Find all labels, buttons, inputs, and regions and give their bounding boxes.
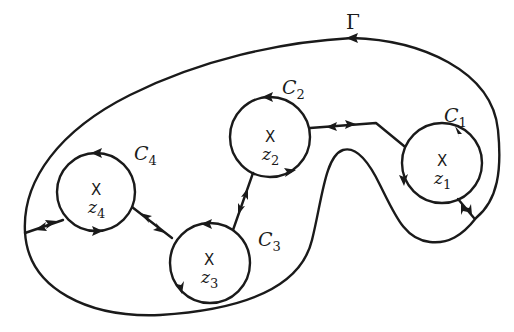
contour-diagram: Γ C1 C2 C3 C4 X z1 X z2 X z3 X z4	[0, 0, 514, 332]
z2-subscript: 2	[271, 153, 279, 168]
z1-subscript: 1	[443, 177, 451, 192]
z3-subscript: 3	[210, 276, 218, 291]
z3-text: z	[201, 267, 210, 287]
pole-z4-label: z4	[88, 199, 105, 220]
c1-label-text: C	[444, 104, 459, 126]
cut-c4-c3	[132, 207, 172, 238]
pole-z2-label: z2	[262, 146, 279, 167]
c1-label-subscript: 1	[459, 115, 467, 130]
z4-text: z	[88, 197, 97, 217]
pole-z2-marker: X	[265, 130, 275, 145]
gamma-label-text: Γ	[346, 10, 360, 34]
z2-text: z	[262, 144, 271, 164]
gamma-label: Γ	[346, 12, 360, 32]
z1-text: z	[434, 168, 443, 188]
c4-label-text: C	[134, 142, 149, 164]
pole-z4-marker: X	[91, 183, 101, 198]
c1-label: C1	[444, 106, 467, 129]
c4-label: C4	[134, 144, 157, 167]
c3-label-text: C	[258, 228, 273, 250]
cut-c2-c1	[310, 123, 404, 146]
c4-label-subscript: 4	[149, 153, 157, 168]
c2-label-subscript: 2	[297, 87, 305, 102]
pole-z1-label: z1	[434, 170, 451, 191]
c3-label-subscript: 3	[273, 239, 281, 254]
pole-z1-marker: X	[437, 154, 447, 169]
pole-z3-marker: X	[204, 253, 214, 268]
z4-subscript: 4	[97, 206, 105, 221]
c2-label-text: C	[282, 76, 297, 98]
pole-z3-label: z3	[201, 269, 218, 290]
c3-label: C3	[258, 230, 281, 253]
c2-label: C2	[282, 78, 305, 101]
cut-c3-c2	[233, 173, 253, 230]
